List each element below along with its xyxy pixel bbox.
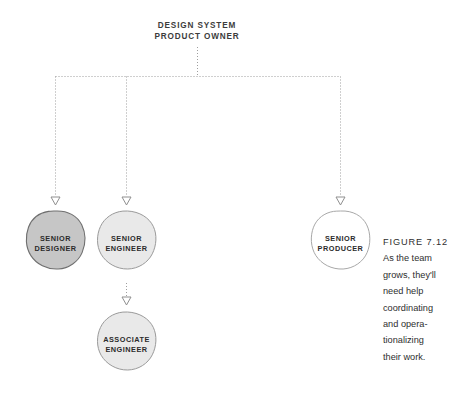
arrowhead-associate-engineer [122,297,131,305]
figure-caption: FIGURE 7.12 As the team grows, they'll n… [383,234,471,365]
connector-arrowheads [51,197,345,305]
root-node-label: DESIGN SYSTEM PRODUCT OWNER [117,20,277,42]
caption-line-1: As the team [383,250,471,266]
figure-caption-body: As the team grows, they'll need help coo… [383,250,471,365]
caption-line-5: and opera- [383,316,471,332]
arrowhead-senior-producer [336,197,345,205]
node-shape-associate-engineer[interactable] [97,312,155,370]
caption-line-7: their work. [383,349,471,365]
root-label-line-1: DESIGN SYSTEM [117,20,277,31]
node-shapes [26,211,370,370]
caption-line-6: tionalizing [383,332,471,348]
caption-line-2: grows, they'll [383,267,471,283]
node-shape-senior-producer[interactable] [311,211,370,269]
arrowhead-senior-designer [51,197,60,205]
figure-container: DESIGN SYSTEM PRODUCT OWNER SENIOR DESIG… [0,0,475,405]
root-label-line-2: PRODUCT OWNER [117,31,277,42]
figure-caption-title: FIGURE 7.12 [383,234,471,250]
arrowhead-senior-engineer [122,197,131,205]
caption-line-4: coordinating [383,300,471,316]
node-shape-senior-designer[interactable] [26,211,85,269]
caption-line-3: need help [383,283,471,299]
node-shape-senior-engineer[interactable] [97,211,155,269]
connector-lines [56,47,341,296]
